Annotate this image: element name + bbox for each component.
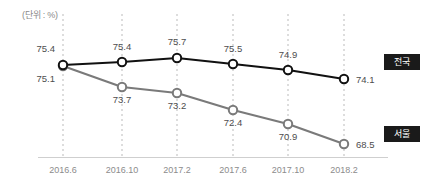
- data-point-marker: [229, 60, 237, 68]
- data-point-marker: [173, 89, 181, 97]
- data-label-seoul: 68.5: [356, 139, 375, 150]
- data-label-national: 75.7: [168, 36, 187, 47]
- data-label-national: 75.4: [113, 41, 132, 52]
- data-label-seoul: 70.9: [279, 131, 298, 142]
- data-point-marker: [118, 83, 126, 91]
- data-label-seoul: 73.7: [113, 94, 132, 105]
- data-label-national: 74.1: [356, 74, 375, 85]
- y-tick-label-national: 75.4: [37, 43, 56, 54]
- x-tick-label: 2017.6: [219, 165, 247, 175]
- data-point-marker: [340, 140, 348, 148]
- chart-container: (단위 : %): [0, 0, 427, 186]
- x-tick-label: 2017.10: [272, 165, 305, 175]
- data-point-marker: [340, 75, 348, 83]
- data-label-seoul: 72.4: [224, 117, 243, 128]
- legend-item-seoul[interactable]: 서울: [384, 126, 420, 142]
- x-tick-label: 2018.2: [330, 165, 358, 175]
- data-label-seoul: 73.2: [168, 100, 187, 111]
- y-tick-label-seoul: 75.1: [37, 73, 56, 84]
- series-line-national: [63, 58, 344, 79]
- gridlines: [63, 14, 344, 157]
- x-tick-label: 2016.6: [49, 165, 77, 175]
- data-point-marker: [284, 66, 292, 74]
- x-tick-label: 2016.10: [106, 165, 139, 175]
- data-point-marker: [118, 58, 126, 66]
- legend-item-national[interactable]: 전국: [384, 54, 420, 70]
- data-point-marker: [59, 61, 67, 69]
- series-line-seoul: [63, 66, 344, 144]
- data-label-national: 74.9: [279, 49, 298, 60]
- x-tick-label: 2017.2: [163, 165, 191, 175]
- series-markers-seoul: [59, 62, 348, 148]
- data-label-national: 75.5: [224, 43, 243, 54]
- data-point-marker: [173, 54, 181, 62]
- data-point-marker: [229, 106, 237, 114]
- data-point-marker: [284, 120, 292, 128]
- line-chart-plot: 75.4 75.1 75.4 75.7 75.5 74.9 74.1 73.7 …: [0, 0, 427, 186]
